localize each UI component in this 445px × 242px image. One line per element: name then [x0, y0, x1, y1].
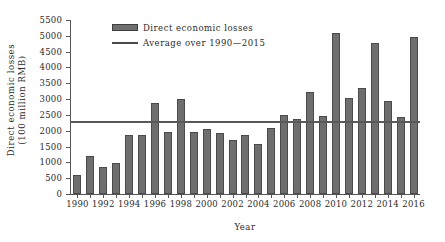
average-line: [71, 121, 420, 123]
y-axis-tick-label: 2000: [40, 126, 62, 136]
bar-2002: [229, 140, 237, 194]
y-axis-tick-label: 5500: [40, 15, 62, 25]
x-axis-tick: [401, 194, 402, 198]
x-axis-tick: [349, 194, 350, 198]
x-axis-tick: [129, 194, 130, 198]
bar-2010: [332, 33, 340, 194]
x-axis-tick: [246, 194, 247, 198]
y-axis-tick: 500: [66, 178, 71, 179]
x-axis-tick-label: 1994: [118, 199, 140, 209]
x-axis-tick: [388, 194, 389, 198]
x-axis-tick: [220, 194, 221, 198]
x-axis-tick: [116, 194, 117, 198]
bar-1996: [151, 103, 159, 194]
bar-2009: [319, 116, 327, 194]
x-axis-tick-label: 1996: [144, 199, 166, 209]
x-axis-tick-label: 1992: [92, 199, 114, 209]
bar-2003: [241, 135, 249, 194]
x-axis-tick: [414, 194, 415, 198]
x-axis-tick-label: 2014: [376, 199, 398, 209]
bar-2001: [216, 133, 224, 194]
chart-legend: Direct economic losses Average over 1990…: [112, 20, 265, 50]
bar-2015: [397, 117, 405, 194]
x-axis-tick: [271, 194, 272, 198]
y-axis-tick: 2500: [66, 115, 71, 116]
x-axis-tick-label: 2016: [402, 199, 424, 209]
x-axis-tick: [207, 194, 208, 198]
bar-2007: [293, 119, 301, 194]
y-axis-tick-label: 0: [56, 189, 62, 199]
y-axis-tick: 3500: [66, 83, 71, 84]
y-axis-tick-label: 3000: [40, 94, 62, 104]
bar-2006: [280, 115, 288, 194]
bar-2014: [384, 101, 392, 194]
x-axis-tick: [375, 194, 376, 198]
legend-label-average: Average over 1990—2015: [143, 38, 265, 48]
x-axis-tick: [258, 194, 259, 198]
chart-figure: Direct economic losses (100 million RMB)…: [0, 0, 445, 242]
bar-1994: [125, 135, 133, 194]
y-axis-tick-label: 4000: [40, 62, 62, 72]
y-axis-title-line1: Direct economic losses: [6, 44, 16, 156]
y-axis-tick-label: 3500: [40, 78, 62, 88]
y-axis-tick-label: 1500: [40, 142, 62, 152]
bar-1992: [99, 167, 107, 194]
y-axis-tick: 2000: [66, 131, 71, 132]
x-axis-tick: [362, 194, 363, 198]
legend-line-swatch-icon: [112, 42, 138, 44]
x-axis-tick: [155, 194, 156, 198]
x-axis-tick: [168, 194, 169, 198]
bar-1990: [73, 175, 81, 194]
bar-2012: [358, 88, 366, 194]
bar-2016: [410, 37, 418, 194]
x-axis-tick: [336, 194, 337, 198]
bar-2011: [345, 98, 353, 194]
y-axis-tick: 1500: [66, 147, 71, 148]
x-axis-tick: [181, 194, 182, 198]
bar-2000: [203, 129, 211, 194]
x-axis-tick-label: 2006: [273, 199, 295, 209]
x-axis-tick-label: 2012: [351, 199, 373, 209]
bar-2004: [254, 144, 262, 194]
y-axis-tick: 5500: [66, 20, 71, 21]
y-axis-tick: 0: [66, 194, 71, 195]
x-axis-tick: [142, 194, 143, 198]
y-axis-tick-label: 4500: [40, 47, 62, 57]
x-axis-tick-label: 2002: [221, 199, 243, 209]
x-axis-tick-label: 2000: [196, 199, 218, 209]
y-axis-tick: 1000: [66, 162, 71, 163]
x-axis-tick: [103, 194, 104, 198]
legend-item-bars: Direct economic losses: [112, 20, 265, 35]
y-axis-tick-label: 5000: [40, 31, 62, 41]
bar-1999: [190, 132, 198, 194]
legend-label-bars: Direct economic losses: [143, 23, 253, 33]
x-axis-title: Year: [70, 222, 420, 232]
y-axis-tick-label: 1000: [40, 157, 62, 167]
x-axis-tick: [194, 194, 195, 198]
x-axis-tick-label: 2010: [325, 199, 347, 209]
x-axis-tick: [233, 194, 234, 198]
bar-2005: [267, 128, 275, 194]
x-axis-tick-label: 2008: [299, 199, 321, 209]
bar-1998: [177, 99, 185, 194]
y-axis-title: Direct economic losses (100 million RMB): [0, 0, 34, 200]
x-axis-tick: [297, 194, 298, 198]
bar-1993: [112, 163, 120, 194]
y-axis-tick-label: 500: [45, 173, 62, 183]
y-axis-tick: 4500: [66, 52, 71, 53]
y-axis-tick: 5000: [66, 36, 71, 37]
x-axis-tick: [90, 194, 91, 198]
bar-2013: [371, 43, 379, 194]
bar-1997: [164, 132, 172, 194]
x-axis-tick: [77, 194, 78, 198]
bar-1991: [86, 156, 94, 194]
y-axis-tick: 3000: [66, 99, 71, 100]
x-axis-tick: [284, 194, 285, 198]
y-axis-tick: 4000: [66, 67, 71, 68]
y-axis-tick-label: 2500: [40, 110, 62, 120]
legend-item-average: Average over 1990—2015: [112, 35, 265, 50]
y-axis-title-line2: (100 million RMB): [17, 44, 28, 156]
x-axis-tick-label: 1998: [170, 199, 192, 209]
bar-2008: [306, 92, 314, 194]
x-axis-tick-label: 2004: [247, 199, 269, 209]
